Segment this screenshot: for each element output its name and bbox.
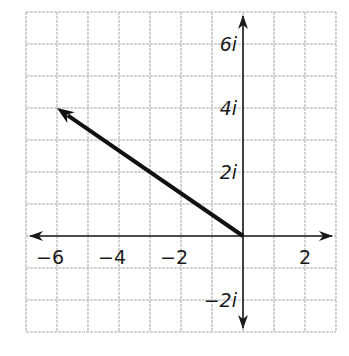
x-tick-label: −2 — [160, 246, 188, 268]
y-tick-label: 6i — [220, 33, 238, 55]
x-tick-label: −6 — [36, 246, 64, 268]
vector-line — [68, 115, 243, 236]
x-tick-label: 2 — [299, 246, 311, 268]
y-tick-label: −2i — [204, 289, 238, 311]
y-tick-label: 2i — [220, 161, 238, 183]
complex-plane-chart: −6 −4 −2 2 6i 4i 2i −2i — [0, 0, 349, 356]
real-axis-tick-labels: −6 −4 −2 2 — [36, 246, 311, 268]
x-tick-label: −4 — [98, 246, 126, 268]
grid-lines — [26, 12, 336, 332]
y-tick-label: 4i — [220, 97, 238, 119]
